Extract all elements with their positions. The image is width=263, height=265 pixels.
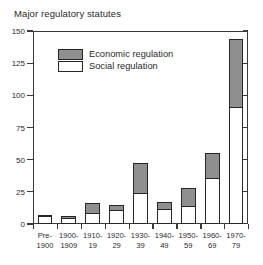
x-axis-tick-label: 1910-19: [83, 231, 102, 251]
bar-segment-economic: [181, 188, 196, 207]
x-axis-tick: [248, 224, 249, 229]
x-axis-tick-label: Pre-1900: [36, 231, 53, 251]
x-axis-tick: [33, 224, 34, 229]
bar-segment-social: [133, 193, 148, 224]
bar-1940-49: [157, 201, 172, 224]
x-axis-tick-label: 1960-69: [202, 231, 221, 251]
x-axis-tick-label: 1900-1909: [59, 231, 78, 251]
chart-figure: Major regulatory statutes 02550751001251…: [0, 0, 263, 265]
bar-segment-social: [85, 212, 100, 224]
bar-segment-economic: [157, 202, 172, 210]
x-axis-tick-label-line: 39: [131, 241, 150, 251]
x-axis-tick: [200, 224, 201, 229]
legend-swatch-social-icon: [58, 61, 83, 72]
chart-legend: Economic regulation Social regulation: [58, 49, 208, 73]
bar-1970-79: [229, 37, 244, 224]
x-axis-tick-label: 1920-29: [107, 231, 126, 251]
x-axis-tick: [152, 224, 153, 229]
x-axis-tick-label-line: 1940-: [155, 231, 174, 241]
x-axis-tick-label-line: 59: [179, 241, 198, 251]
bar-segment-economic: [38, 215, 53, 218]
x-axis-tick: [224, 224, 225, 229]
x-axis-tick-label-line: 1950-: [179, 231, 198, 241]
bar-segment-social: [157, 209, 172, 224]
x-axis-tick-label-line: 1970-: [226, 231, 245, 241]
x-axis-tick-label: 1970-79: [226, 231, 245, 251]
x-axis-tick-label: 1950-59: [179, 231, 198, 251]
bar-segment-social: [109, 210, 124, 224]
x-axis-tick-label: 1940-49: [155, 231, 174, 251]
bar-1930-39: [133, 162, 148, 224]
x-axis-tick: [105, 224, 106, 229]
chart-title: Major regulatory statutes: [14, 8, 121, 19]
x-axis-tick: [81, 224, 82, 229]
bar-1910-19: [85, 202, 100, 224]
legend-item-social: Social regulation: [58, 61, 208, 73]
legend-label-social: Social regulation: [89, 61, 158, 71]
y-axis-tick-label: 50: [0, 155, 25, 164]
bar-segment-social: [205, 178, 220, 224]
bar-1920-29: [109, 203, 124, 224]
x-axis-tick-label-line: Pre-: [36, 231, 53, 241]
y-axis-tick-label: 125: [0, 59, 25, 68]
x-axis-tick-label-line: 1960-: [202, 231, 221, 241]
x-axis-tick-label-line: 49: [155, 241, 174, 251]
x-axis-tick-label-line: 69: [202, 241, 221, 251]
bar-segment-economic: [229, 39, 244, 108]
legend-swatch-economic-icon: [58, 49, 83, 60]
x-axis-tick-label: 1930-39: [131, 231, 150, 251]
y-axis-tick-label: 25: [0, 187, 25, 196]
bar-pre-1900: [38, 214, 53, 224]
bar-1960-69: [205, 152, 220, 224]
bar-segment-economic: [61, 216, 76, 219]
x-axis-tick: [129, 224, 130, 229]
x-axis-tick: [57, 224, 58, 229]
bar-segment-economic: [109, 205, 124, 211]
x-axis-tick-label-line: 29: [107, 241, 126, 251]
x-axis-tick-label-line: 1909: [59, 241, 78, 251]
x-axis-tick: [176, 224, 177, 229]
bar-1950-59: [181, 187, 196, 224]
y-axis-tick-label: 75: [0, 123, 25, 132]
x-axis-tick-label-line: 79: [226, 241, 245, 251]
bar-1900-1909: [61, 215, 76, 224]
x-axis-tick-label-line: 1920-: [107, 231, 126, 241]
bar-segment-economic: [85, 203, 100, 213]
y-axis-tick-label: 100: [0, 91, 25, 100]
x-axis-tick-label-line: 1900: [36, 241, 53, 251]
bar-segment-economic: [205, 153, 220, 179]
x-axis-tick-label-line: 1900-: [59, 231, 78, 241]
y-axis-tick-label: 0: [0, 220, 25, 229]
bar-segment-social: [181, 206, 196, 224]
x-axis-tick-label-line: 19: [83, 241, 102, 251]
y-axis-tick-label: 150: [0, 27, 25, 36]
legend-item-economic: Economic regulation: [58, 49, 208, 61]
x-axis-tick-label-line: 1930-: [131, 231, 150, 241]
x-axis-tick-label-line: 1910-: [83, 231, 102, 241]
bar-segment-economic: [133, 163, 148, 194]
legend-label-economic: Economic regulation: [89, 49, 173, 59]
bar-segment-social: [229, 107, 244, 224]
